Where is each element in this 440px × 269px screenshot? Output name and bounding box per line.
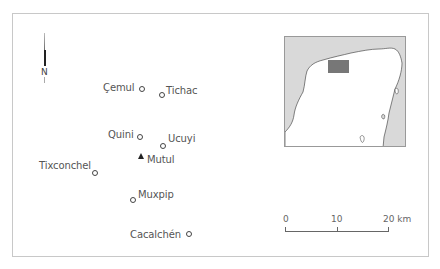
capital-triangle-icon bbox=[138, 153, 144, 159]
place-label: Mutul bbox=[147, 154, 175, 166]
site-marker-icon bbox=[186, 231, 192, 237]
place-label: Çemul bbox=[103, 82, 135, 94]
scale-line bbox=[285, 231, 389, 232]
place-label: Ucuyi bbox=[168, 133, 195, 145]
study-area-highlight bbox=[328, 60, 349, 73]
site-marker-icon bbox=[159, 92, 165, 98]
site-marker-icon bbox=[139, 86, 145, 92]
scale-label-0: 0 bbox=[283, 214, 289, 225]
yucatan-peninsula-outline bbox=[285, 37, 406, 147]
place-label: Tixconchel bbox=[39, 160, 91, 172]
place-label: Muxpip bbox=[138, 189, 174, 201]
inset-locator-map bbox=[284, 36, 406, 147]
scale-label-10: 10 bbox=[331, 214, 342, 225]
site-marker-icon bbox=[92, 170, 98, 176]
north-arrow-tail bbox=[44, 77, 45, 83]
north-arrow-shaft bbox=[44, 50, 46, 66]
north-label: N bbox=[41, 67, 48, 77]
place-label: Cacalchén bbox=[130, 229, 181, 241]
place-label: Quini bbox=[108, 129, 134, 141]
site-marker-icon bbox=[137, 134, 143, 140]
place-label: Tichac bbox=[166, 85, 197, 97]
site-marker-icon bbox=[160, 143, 166, 149]
site-marker-icon bbox=[130, 197, 136, 203]
scale-label-20: 20 km bbox=[383, 214, 411, 225]
